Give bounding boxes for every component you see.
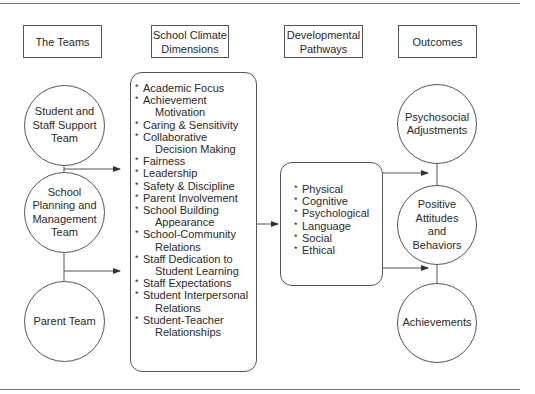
header-label: School ClimateDimensions [153, 28, 227, 56]
header-the-teams: The Teams [23, 25, 102, 58]
climate-item-label: Staff Expectations [143, 277, 231, 289]
team-label-line: Team [51, 226, 78, 238]
outcome-label-line: and [428, 225, 446, 237]
pathway-item: Social [292, 232, 382, 244]
climate-item-continuation: Decision Making [143, 143, 256, 155]
outcome-label-line: Adjustments [407, 124, 468, 136]
climate-item: Academic Focus [133, 82, 256, 94]
developmental-pathways-box: Physical Cognitive Psychological Languag… [280, 162, 383, 286]
outcome-positive-attitudes-behaviors: PositiveAttitudesandBehaviors [397, 185, 477, 265]
climate-item-label: Safety & Discipline [143, 180, 235, 192]
team-label-line: Planning and [32, 199, 96, 211]
team-label: Parent Team [33, 315, 95, 329]
team-label-line: School [48, 186, 82, 198]
header-label-line: School Climate [153, 29, 227, 41]
team-label-line: Student and [35, 105, 94, 117]
climate-item-continuation: Appearance [143, 216, 256, 228]
climate-item: Student InterpersonalRelations [133, 289, 256, 313]
pathway-label: Physical [302, 183, 343, 195]
pathway-item: Language [292, 220, 382, 232]
team-label: Student andStaff SupportTeam [32, 105, 96, 146]
climate-item-label: Leadership [143, 167, 197, 179]
team-label-line: Management [32, 213, 96, 225]
climate-item-continuation: Motivation [143, 106, 256, 118]
climate-item-label: Student Interpersonal [143, 289, 248, 301]
header-outcomes: Outcomes [398, 25, 477, 58]
climate-item: Caring & Sensitivity [133, 119, 256, 131]
outcome-label-line: Psychosocial [405, 111, 469, 123]
pathway-item: Cognitive [292, 195, 382, 207]
outcome-label-line: Behaviors [413, 239, 462, 251]
climate-item: Staff Expectations [133, 277, 256, 289]
climate-dimensions-list: Academic Focus AchievementMotivation Car… [133, 82, 256, 338]
climate-item: School BuildingAppearance [133, 204, 256, 228]
pathway-label: Language [302, 220, 351, 232]
outcome-psychosocial-adjustments: PsychosocialAdjustments [397, 84, 477, 164]
pathway-item: Ethical [292, 244, 382, 256]
team-student-staff-support: Student andStaff SupportTeam [24, 85, 105, 166]
climate-item: Fairness [133, 155, 256, 167]
climate-dimensions-box: Academic Focus AchievementMotivation Car… [130, 72, 257, 372]
climate-item-label: Achievement [143, 94, 207, 106]
team-label: SchoolPlanning andManagementTeam [32, 186, 96, 240]
outcome-label-line: Attitudes [416, 212, 459, 224]
outcome-label-line: Positive [418, 198, 457, 210]
team-parent: Parent Team [24, 281, 105, 362]
climate-item-label: Academic Focus [143, 82, 224, 94]
climate-item: Staff Dedication toStudent Learning [133, 253, 256, 277]
climate-item: Leadership [133, 167, 256, 179]
outcome-achievements: Achievements [397, 283, 477, 363]
pathway-item: Psychological [292, 207, 382, 219]
team-label-line: Team [51, 132, 78, 144]
header-label: The Teams [35, 35, 89, 49]
climate-item: Student-TeacherRelationships [133, 314, 256, 338]
header-label-line: Pathways [300, 43, 348, 55]
header-label: DevelopmentalPathways [287, 28, 360, 56]
climate-item-label: School Building [143, 204, 219, 216]
pathway-label: Cognitive [302, 195, 348, 207]
header-label: Outcomes [412, 35, 462, 49]
climate-item: CollaborativeDecision Making [133, 131, 256, 155]
climate-item-label: Parent Involvement [143, 192, 238, 204]
pathway-label: Psychological [302, 207, 369, 219]
header-school-climate-dimensions: School ClimateDimensions [151, 25, 229, 58]
header-label-line: Developmental [287, 29, 360, 41]
climate-item-label: Staff Dedication to [143, 253, 233, 265]
team-label-line: Staff Support [32, 119, 96, 131]
team-school-planning-management: SchoolPlanning andManagementTeam [24, 172, 105, 253]
outcome-label: PsychosocialAdjustments [405, 111, 469, 138]
header-label-line: Dimensions [161, 43, 218, 55]
pathways-list: Physical Cognitive Psychological Languag… [292, 183, 382, 256]
climate-item-label: School-Community [143, 228, 236, 240]
climate-item-continuation: Student Learning [143, 265, 256, 277]
climate-item-label: Fairness [143, 155, 185, 167]
climate-item-label: Collaborative [143, 131, 207, 143]
header-developmental-pathways: DevelopmentalPathways [284, 25, 363, 58]
climate-item: Parent Involvement [133, 192, 256, 204]
climate-item: School-CommunityRelations [133, 228, 256, 252]
pathway-label: Social [302, 232, 332, 244]
outcome-label: Achievements [402, 316, 471, 330]
pathway-label: Ethical [302, 244, 335, 256]
outcome-label: PositiveAttitudesandBehaviors [413, 198, 462, 252]
climate-item: AchievementMotivation [133, 94, 256, 118]
climate-item-continuation: Relationships [143, 326, 256, 338]
climate-item-continuation: Relations [143, 241, 256, 253]
climate-item-label: Student-Teacher [143, 314, 224, 326]
climate-item-label: Caring & Sensitivity [143, 119, 238, 131]
pathway-item: Physical [292, 183, 382, 195]
climate-item: Safety & Discipline [133, 180, 256, 192]
climate-item-continuation: Relations [143, 302, 256, 314]
